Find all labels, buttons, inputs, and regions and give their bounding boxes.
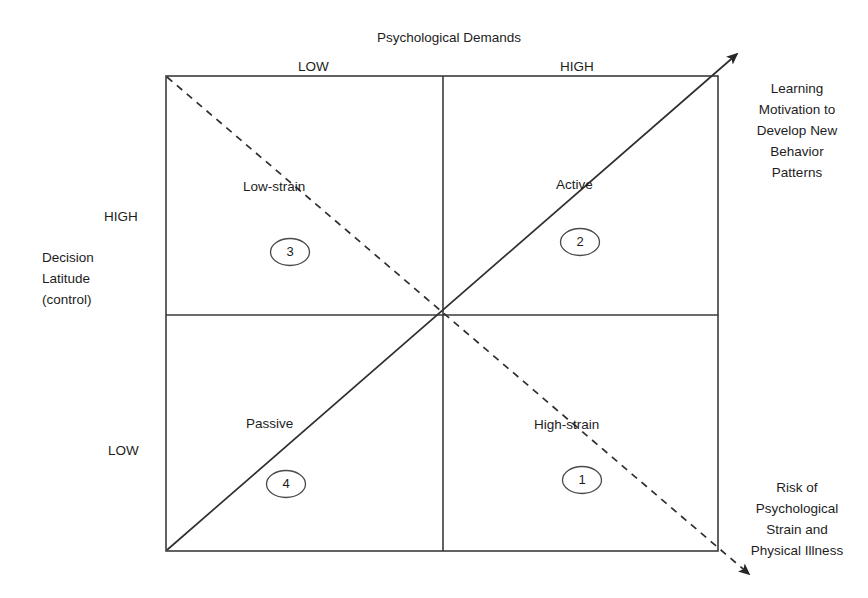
column-header-high: HIGH <box>560 60 594 74</box>
annotation-line: Behavior <box>735 141 859 162</box>
quadrant-label-low-strain: Low-strain <box>243 180 305 194</box>
y-axis-label-line: Decision <box>42 247 182 268</box>
quadrant-label-passive: Passive <box>246 417 293 431</box>
quadrant-number-2: 2 <box>560 228 600 256</box>
quadrant-label-high-strain: High-strain <box>534 418 599 432</box>
strain-level-diagonal <box>167 77 749 574</box>
annotation-line: Strain and <box>733 519 861 540</box>
quadrant-number-1: 1 <box>562 466 602 494</box>
activity-level-diagonal <box>167 54 737 550</box>
diagram-canvas: Psychological Demands LOW HIGH HIGH LOW … <box>0 0 868 598</box>
annotation-learning-motivation: Learning Motivation to Develop New Behav… <box>735 78 859 183</box>
annotation-risk-of-strain: Risk of Psychological Strain and Physica… <box>733 477 861 561</box>
quadrant-number-4: 4 <box>266 470 306 498</box>
annotation-line: Physical Illness <box>733 540 861 561</box>
y-axis-label-line: (control) <box>42 289 182 310</box>
annotation-line: Learning <box>735 78 859 99</box>
annotation-line: Develop New <box>735 120 859 141</box>
y-axis-label: Decision Latitude (control) <box>42 247 182 310</box>
annotation-line: Risk of <box>733 477 861 498</box>
chart-title: Psychological Demands <box>377 31 521 45</box>
row-header-high: HIGH <box>104 210 138 224</box>
annotation-line: Motivation to <box>735 99 859 120</box>
row-header-low: LOW <box>108 444 139 458</box>
quadrant-label-active: Active <box>556 178 593 192</box>
annotation-line: Patterns <box>735 162 859 183</box>
column-header-low: LOW <box>298 60 329 74</box>
annotation-line: Psychological <box>733 498 861 519</box>
y-axis-label-line: Latitude <box>42 268 182 289</box>
quadrant-number-3: 3 <box>270 238 310 266</box>
